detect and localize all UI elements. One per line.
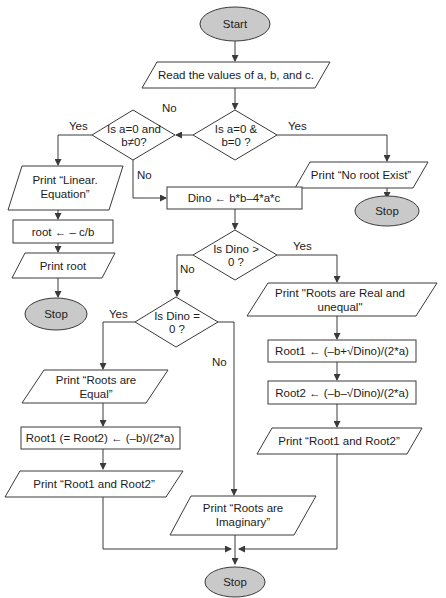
decision-dino-gt0: Is Dino > 0 ? (193, 230, 277, 280)
print-no-root-label: Print “No root Exist” (311, 169, 411, 181)
decision-a0-b0-line1: Is a=0 & (215, 123, 258, 135)
decision-dino-gt0-line1: Is Dino > (213, 243, 259, 255)
stop-no-root-terminal: Stop (355, 196, 419, 226)
edge-label-dino-eq0-no: No (212, 356, 227, 368)
print-roots-left-label: Print “Root1 and Root2” (33, 478, 155, 490)
decision-dino-eq0-line1: Is Dino = (154, 310, 200, 322)
print-linear-line2: Equation” (40, 188, 89, 200)
print-equal-line1: Print “Roots are (56, 374, 137, 386)
decision-dino-eq0-line2: 0 ? (169, 323, 185, 335)
stop-linear-terminal: Stop (25, 298, 87, 330)
print-real-unequal-node: Print "Roots are Real and unequal" (247, 283, 437, 316)
compute-dino-label: Dino ← b*b–4*a*c (188, 192, 281, 204)
edge-label-dino-gt0-no: No (180, 263, 195, 275)
compute-root-label: root ← – c/b (32, 226, 95, 238)
print-root-node: Print root (12, 253, 115, 278)
compute-root2-node: Root2 ← (–b–√Dino)/(2*a) (268, 381, 416, 404)
print-linear-line1: Print “Linear. (32, 174, 97, 186)
compute-root2-label: Root2 ← (–b–√Dino)/(2*a) (275, 387, 409, 399)
read-input-node: Read the values of a, b, and c. (142, 62, 330, 88)
start-terminal: Start (200, 7, 270, 41)
compute-root1-node: Root1 ← (–b+√Dino)/(2*a) (268, 340, 416, 362)
compute-root1-label: Root1 ← (–b+√Dino)/(2*a) (275, 345, 409, 357)
stop-final-terminal: Stop (205, 567, 265, 597)
print-equal-node: Print “Roots are Equal” (22, 370, 168, 403)
decision-dino-eq0: Is Dino = 0 ? (135, 297, 218, 347)
decision-dino-gt0-line2: 0 ? (228, 256, 244, 268)
print-roots-right-label: Print “Root1 and Root2” (278, 435, 400, 447)
print-roots-left-node: Print “Root1 and Root2” (5, 471, 183, 497)
stop-final-label: Stop (223, 576, 247, 588)
print-imaginary-line2: Imaginary” (216, 516, 270, 528)
compute-equal-root-node: Root1 (= Root2) ← (–b)/(2*a) (21, 427, 180, 449)
compute-equal-root-label: Root1 (= Root2) ← (–b)/(2*a) (26, 432, 175, 444)
flowchart-svg: Start Read the values of a, b, and c. Is… (0, 0, 446, 598)
decision-linear-line1: Is a=0 and (107, 123, 161, 135)
edge-label-linear-yes: Yes (69, 120, 88, 132)
print-root-label: Print root (40, 260, 87, 272)
print-real-unequal-line2: unequal" (317, 301, 362, 313)
print-imaginary-node: Print “Roots are Imaginary” (170, 496, 316, 535)
start-label: Start (223, 18, 248, 30)
decision-a0-b0-line2: b=0 ? (221, 136, 250, 148)
edge-label-dino-gt0-yes: Yes (293, 240, 312, 252)
read-input-label: Read the values of a, b, and c. (158, 69, 314, 81)
compute-dino-node: Dino ← b*b–4*a*c (167, 187, 302, 209)
print-equal-line2: Equal” (79, 388, 112, 400)
print-no-root-node: Print “No root Exist” (295, 162, 428, 188)
print-real-unequal-line1: Print "Roots are Real and (275, 287, 405, 299)
decision-a0-b0: Is a=0 & b=0 ? (193, 110, 277, 160)
flowchart-canvas: Start Read the values of a, b, and c. Is… (0, 0, 446, 598)
edge-label-a0b0-yes: Yes (288, 120, 307, 132)
stop-no-root-label: Stop (375, 205, 399, 217)
print-imaginary-line1: Print “Roots are (203, 502, 284, 514)
print-roots-right-node: Print “Root1 and Root2” (257, 428, 422, 454)
compute-root-node: root ← – c/b (13, 220, 113, 243)
edge-label-a0b0-no: No (162, 102, 177, 114)
edge-label-dino-eq0-yes: Yes (109, 308, 128, 320)
edge-label-linear-no: No (137, 169, 152, 181)
decision-linear: Is a=0 and b≠0? (92, 110, 175, 160)
stop-linear-label: Stop (44, 308, 68, 320)
print-linear-node: Print “Linear. Equation” (8, 166, 123, 210)
decision-linear-line2: b≠0? (121, 136, 147, 148)
